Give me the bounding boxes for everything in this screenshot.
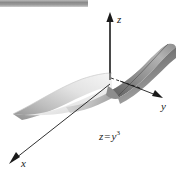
surface-equation-label: z=y3 (99, 131, 120, 142)
figure-surface-plot: z y x z=y3 (0, 0, 178, 173)
axis-label-z: z (117, 14, 121, 25)
axis-label-x: x (21, 158, 26, 169)
plot-canvas (0, 0, 178, 173)
equation-exponent: 3 (116, 129, 120, 137)
surface-right-wing (112, 44, 176, 104)
equation-operator: = (103, 130, 111, 142)
axis-label-y: y (161, 101, 166, 112)
